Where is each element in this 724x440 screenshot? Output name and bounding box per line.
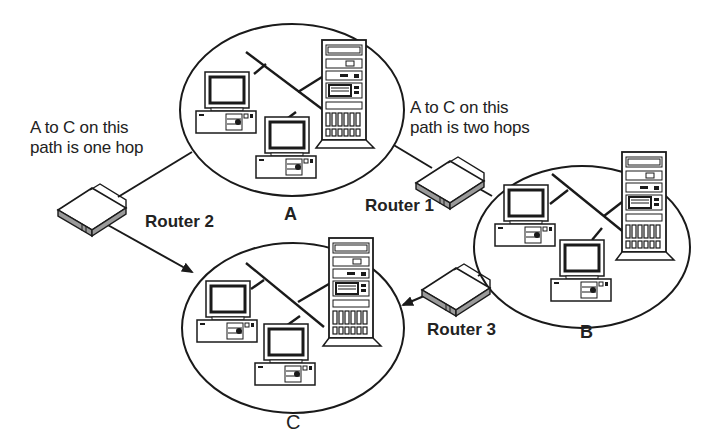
server-icon	[323, 238, 381, 346]
two-hops-annotation: A to C on this path is two hops	[410, 98, 530, 137]
router-2-icon	[58, 184, 126, 236]
annotation-line: A to C on this	[410, 98, 530, 118]
network-a-label: A	[284, 204, 297, 225]
annotation-line: path is one hop	[30, 138, 143, 158]
annotation-line: path is two hops	[410, 118, 530, 138]
workstation-icon	[495, 185, 555, 246]
workstation-icon	[255, 324, 315, 385]
network-c	[182, 238, 404, 413]
router-3-label: Router 3	[427, 320, 496, 340]
network-c-label: C	[286, 411, 300, 434]
router-1-label: Router 1	[365, 196, 434, 216]
one-hop-annotation: A to C on this path is one hop	[30, 118, 143, 157]
annotation-line: A to C on this	[30, 118, 143, 138]
workstation-icon	[196, 72, 256, 133]
workstation-icon	[551, 240, 611, 301]
workstation-icon	[197, 281, 257, 342]
server-icon	[616, 152, 674, 260]
network-b	[474, 152, 690, 328]
network-b-label: B	[580, 322, 593, 343]
router-2-label: Router 2	[145, 212, 214, 232]
workstation-icon	[256, 117, 316, 178]
network-diagram	[0, 0, 724, 440]
network-a	[180, 24, 404, 196]
server-icon	[316, 40, 374, 148]
